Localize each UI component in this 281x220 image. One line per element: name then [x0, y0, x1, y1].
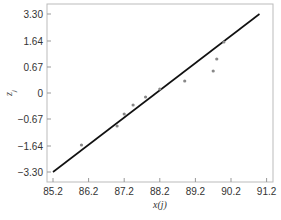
y-tick-label: 0.67	[24, 62, 44, 73]
y-axis: 3.301.640.670−0.67−1.64−3.30	[18, 9, 51, 178]
data-point	[123, 112, 126, 115]
x-tick-label: 88.2	[150, 186, 170, 197]
y-tick-label: 3.30	[24, 9, 44, 20]
y-tick-label: −0.67	[18, 114, 44, 125]
x-axis: 85.286.287.288.289.290.291.2	[43, 178, 277, 197]
x-axis-title: x(j)	[152, 199, 168, 211]
data-point	[115, 124, 118, 127]
data-point	[212, 69, 215, 72]
data-point	[144, 95, 147, 98]
data-point	[132, 103, 135, 106]
x-tick-label: 90.2	[221, 186, 241, 197]
x-tick-label: 91.2	[257, 186, 277, 197]
data-point	[222, 40, 225, 43]
data-point	[158, 87, 161, 90]
x-tick-label: 85.2	[43, 186, 63, 197]
x-tick-label: 86.2	[79, 186, 99, 197]
y-tick-label: −3.30	[18, 167, 44, 178]
y-tick-label: 0	[37, 88, 43, 99]
x-tick-label: 87.2	[114, 186, 134, 197]
data-point	[80, 143, 83, 146]
x-tick-label: 89.2	[186, 186, 206, 197]
y-tick-label: 1.64	[24, 36, 44, 47]
y-axis-title: zj	[3, 90, 18, 97]
normal-probability-plot: 3.301.640.670−0.67−1.64−3.30 85.286.287.…	[0, 0, 281, 220]
plot-frame	[47, 4, 273, 182]
data-point	[215, 57, 218, 60]
y-tick-label: −1.64	[18, 141, 44, 152]
fitted-line	[53, 14, 259, 172]
data-point	[183, 79, 186, 82]
